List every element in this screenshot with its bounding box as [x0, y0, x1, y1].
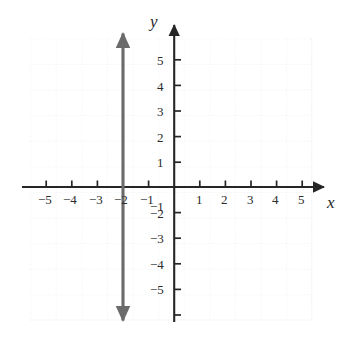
x-tick-label: −4	[63, 193, 77, 206]
y-tick-label: 3	[157, 105, 164, 118]
x-axis-label: x	[327, 194, 335, 211]
y-tick-label: 5	[157, 54, 164, 67]
x-tick-label: −2	[114, 193, 128, 206]
x-tick-label: 4	[272, 193, 279, 206]
y-tick-label: −5	[150, 283, 164, 296]
x-tick-label: −5	[38, 193, 52, 206]
y-tick-label: −4	[150, 258, 164, 271]
x-tick-label: −3	[89, 193, 103, 206]
graph-canvas	[0, 0, 347, 342]
y-tick-label: 4	[157, 80, 164, 93]
y-tick-label: 1	[157, 156, 164, 169]
x-tick-label: 3	[247, 193, 254, 206]
grid-lines	[30, 38, 312, 320]
y-tick-label: −2	[150, 207, 164, 220]
coordinate-plane-figure: y x −5 −4 −3 −2 −1 1 2 3 4 5 5 4 3 2 1 −…	[0, 0, 347, 342]
y-axis-label: y	[150, 13, 158, 30]
y-tick-label: 2	[157, 131, 164, 144]
x-tick-label: 5	[298, 193, 305, 206]
y-tick-label: −3	[150, 232, 164, 245]
x-tick-label: 2	[221, 193, 228, 206]
x-tick-label: 1	[196, 193, 203, 206]
